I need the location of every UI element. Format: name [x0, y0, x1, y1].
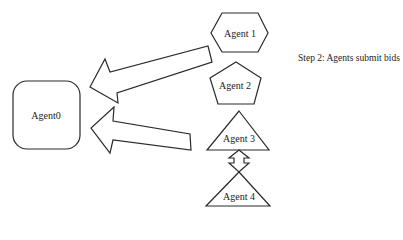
arrow-agent3-to-agent0 — [91, 107, 191, 153]
agent3-triangle — [207, 111, 269, 150]
arrow-agent3-agent4 — [229, 150, 249, 172]
arrow-agent1-to-agent0 — [90, 46, 212, 103]
step-caption: Step 2: Agents submit bids — [298, 53, 400, 63]
agent3-label: Agent 3 — [223, 133, 255, 144]
agent1-label: Agent 1 — [224, 28, 256, 39]
agent0-label: Agent0 — [31, 110, 60, 121]
agent2-label: Agent 2 — [219, 80, 251, 91]
agent4-label: Agent 4 — [223, 191, 255, 202]
